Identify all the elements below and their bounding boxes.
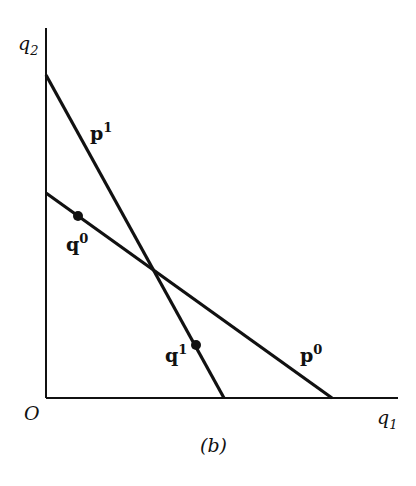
label-p0: p0 xyxy=(300,342,322,366)
label-p1: p1 xyxy=(90,120,112,144)
origin-label: O xyxy=(24,402,40,424)
budget-lines-diagram: q2 q1 O p1 p0 q0 q1 (b) xyxy=(0,0,416,486)
x-axis-label: q1 xyxy=(377,406,397,432)
label-q0: q0 xyxy=(66,231,88,255)
y-axis-label: q2 xyxy=(18,32,38,58)
point-q0 xyxy=(73,211,83,221)
point-q1 xyxy=(191,340,201,350)
budget-line-p0 xyxy=(46,193,332,398)
figure-caption: (b) xyxy=(200,434,227,456)
label-q1: q1 xyxy=(165,342,187,366)
